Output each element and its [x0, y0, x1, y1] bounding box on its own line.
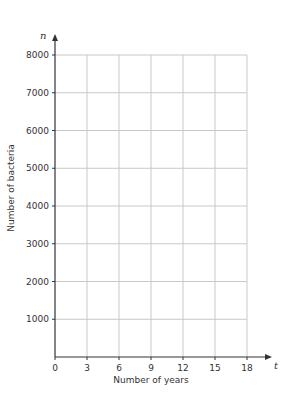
x-axis-arrow-icon	[265, 354, 272, 360]
x-tick-label: 18	[241, 363, 253, 373]
x-tick-label: 3	[84, 363, 90, 373]
x-tick-label: 6	[116, 363, 122, 373]
y-tick-labels: 10002000300040005000600070008000	[26, 50, 49, 324]
bacteria-growth-chart: 0369121518 10002000300040005000600070008…	[0, 0, 284, 415]
x-tick-label: 0	[52, 363, 58, 373]
x-tick-label: 15	[209, 363, 220, 373]
y-tick-label: 3000	[26, 239, 49, 249]
y-variable-label: n	[40, 30, 46, 41]
y-tick-label: 8000	[26, 50, 49, 60]
y-tick-label: 1000	[26, 314, 49, 324]
y-tick-label: 5000	[26, 163, 49, 173]
x-tick-labels: 0369121518	[52, 363, 253, 373]
x-variable-label: t	[274, 360, 279, 371]
y-tick-label: 6000	[26, 126, 49, 136]
grid-lines	[55, 55, 247, 357]
axes	[52, 34, 272, 360]
y-tick-label: 2000	[26, 277, 49, 287]
x-tick-label: 12	[177, 363, 188, 373]
y-tick-label: 4000	[26, 201, 49, 211]
y-tick-label: 7000	[26, 88, 49, 98]
y-axis-title: Number of bacteria	[6, 144, 16, 232]
x-axis-title: Number of years	[113, 375, 189, 385]
y-axis-arrow-icon	[52, 34, 58, 41]
x-tick-label: 9	[148, 363, 154, 373]
